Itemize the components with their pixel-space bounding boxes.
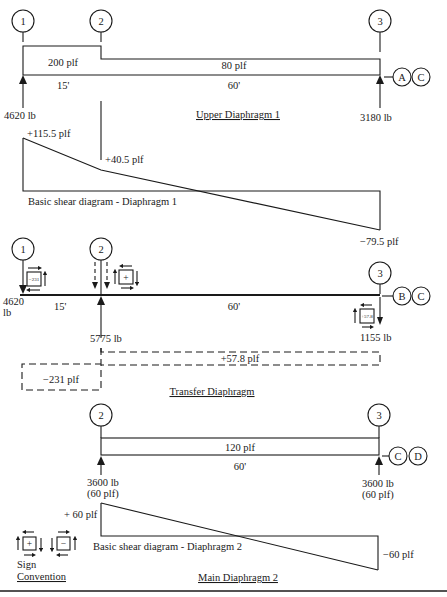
reaction-label-left: 4620 lb (4, 110, 36, 121)
reaction-label-mid: 5775 lb (90, 333, 122, 344)
main-diaphragm: 2 3 120 plf 60' 3600 lb (60 plf) 3600 lb… (87, 404, 427, 501)
gridline-bubble-2: 2 (90, 10, 112, 42)
gridline-bubble-1: 1 (12, 238, 34, 260)
upper-diaphragm: 1 2 3 200 plf 80 plf 15' 60' 4620 lb 318… (4, 10, 430, 123)
reaction-label-left: 4620 (3, 296, 24, 307)
svg-text:2: 2 (98, 16, 103, 27)
svg-text:−231: −231 (29, 277, 40, 282)
span-label-right: 60' (228, 80, 241, 91)
gridline-bubble-2: 2 (90, 404, 112, 438)
line-label-D: D (409, 447, 427, 465)
sign-convention-label: Sign (17, 559, 37, 570)
line-label-C: C (412, 68, 430, 86)
load-label-left: 200 plf (48, 57, 79, 68)
svg-text:2: 2 (98, 410, 103, 421)
reaction-label-right: 3180 lb (360, 112, 392, 123)
load-label: 120 plf (225, 442, 256, 453)
gridline-bubble-3: 3 (369, 10, 391, 52)
svg-text:C: C (417, 291, 424, 302)
transfer-shear-diagram: +57.8 plf −231 plf (22, 348, 380, 390)
transfer-shear-left-label: −231 plf (43, 374, 79, 385)
reaction-arrow-left (19, 75, 27, 108)
shear-element-right: +57.8 (355, 305, 374, 327)
reaction-label-left-unit: lb (3, 307, 11, 318)
span-label-right: 60' (228, 301, 241, 312)
reaction-label-right: 3600 lb (362, 478, 394, 489)
diaphragm-figure: 1 2 3 200 plf 80 plf 15' 60' 4620 lb 318… (0, 0, 447, 597)
reaction-arrow-mid (97, 296, 105, 338)
transfer-diaphragm-title: Transfer Diaphragm (169, 386, 254, 397)
gridline-bubble-3: 3 (368, 404, 390, 438)
reaction-arrow-right (376, 75, 384, 108)
svg-text:1: 1 (20, 16, 25, 27)
gridline-bubble-2: 2 (90, 238, 112, 260)
svg-text:D: D (414, 451, 422, 462)
line-label-C: C (412, 287, 430, 305)
shear2-start-label: + 60 plf (64, 509, 98, 520)
reaction-arrow-right (375, 456, 383, 475)
shear1-start-label: +115.5 plf (27, 128, 71, 139)
svg-text:3: 3 (376, 410, 381, 421)
svg-text:A: A (398, 72, 406, 83)
shear2-title: Basic shear diagram - Diaphragm 2 (93, 541, 242, 552)
svg-text:C: C (394, 451, 401, 462)
line-label-B: B (393, 287, 411, 305)
span-label: 60' (234, 461, 247, 472)
sign-convention-label-2: Convention (17, 571, 67, 582)
reaction-sub-label-right: (60 plf) (362, 489, 394, 501)
shear-element-mid: + (115, 266, 137, 288)
upper-diaphragm-title: Upper Diaphragm 1 (196, 109, 280, 120)
shear-element-left: −231 (27, 268, 45, 290)
reaction-label-right: 1155 lb (360, 332, 391, 343)
svg-text:2: 2 (98, 244, 103, 255)
svg-text:−: − (61, 539, 66, 549)
gridline-bubble-1: 1 (12, 10, 34, 42)
shear1-end-label: −79.5 plf (360, 236, 399, 247)
transfer-shear-right-label: +57.8 plf (221, 353, 260, 364)
gridline-bubble-3: 3 (369, 262, 391, 294)
reaction-label-left: 3600 lb (87, 477, 119, 488)
shear2-end-label: −60 plf (383, 549, 414, 560)
sign-convention: + − Sign Convention (17, 532, 75, 582)
svg-text:3: 3 (377, 16, 382, 27)
svg-text:+: + (123, 273, 128, 283)
load-label-right: 80 plf (222, 60, 247, 71)
svg-text:+: + (27, 539, 32, 549)
span-label-left: 15' (57, 80, 70, 91)
reaction-arrow-left (97, 456, 105, 475)
shear-diagram-1: +115.5 plf +40.5 plf −79.5 plf Basic she… (23, 101, 399, 247)
main-diaphragm-title: Main Diaphragm 2 (198, 572, 278, 583)
svg-text:1: 1 (20, 244, 25, 255)
line-label-A: A (393, 68, 411, 86)
shear1-mid-label: +40.5 plf (105, 154, 144, 165)
svg-text:+57.8: +57.8 (361, 314, 373, 319)
positive-shear-element: + (18, 532, 41, 555)
span-label-left: 15' (54, 301, 67, 312)
shear-diagram-2: + 60 plf −60 plf Basic shear diagram - D… (64, 503, 414, 583)
transfer-diaphragm: 1 2 3 −231 (3, 238, 430, 397)
svg-text:3: 3 (377, 268, 382, 279)
shear1-title: Basic shear diagram - Diaphragm 1 (28, 196, 177, 207)
line-label-C: C (389, 447, 407, 465)
negative-shear-element: − (52, 532, 75, 555)
svg-text:C: C (417, 72, 424, 83)
reaction-sub-label-left: (60 plf) (87, 488, 119, 500)
svg-text:B: B (398, 291, 405, 302)
